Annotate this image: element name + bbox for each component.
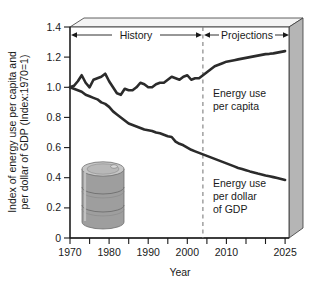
y-tick-label-1.4: 1.4 [46, 21, 61, 33]
series-label-capita-line1: Energy use [213, 87, 266, 99]
series-label-gdp-line3: of GDP [213, 203, 247, 215]
x-tick-label-2010: 2010 [215, 246, 239, 258]
y-tick-label-0.4: 0.4 [46, 171, 61, 183]
x-tick-label-1980: 1980 [97, 246, 121, 258]
y-axis-title-line2: per dollar of GDP (Index:1970=1) [18, 55, 30, 210]
x-tick-label-1970: 1970 [58, 246, 82, 258]
x-axis-title: Year [169, 266, 191, 278]
series-label-energy-use-per-capita: Energy use per capita [213, 87, 266, 112]
chart-figure: 0 0.2 0.4 0.6 0.8 1.0 1.2 1.4 Index of e… [0, 0, 325, 289]
y-tick-label-0.8: 0.8 [46, 111, 61, 123]
oil-barrel-illustration [82, 162, 124, 229]
panel-top-3d [70, 18, 303, 27]
panel-side-3d [289, 18, 303, 238]
series-label-gdp-line1: Energy use [213, 177, 266, 189]
x-tick-label-2000: 2000 [176, 246, 200, 258]
series-label-capita-line2: per capita [213, 100, 259, 112]
history-label: History [120, 29, 153, 41]
y-tick-label-0.2: 0.2 [46, 201, 61, 213]
series-label-gdp-line2: per dollar [213, 190, 257, 202]
projections-label: Projections [221, 29, 273, 41]
y-tick-label-0: 0 [55, 232, 61, 244]
y-tick-label-0.6: 0.6 [46, 141, 61, 153]
y-axis-title: Index of energy use per capita and per d… [6, 51, 30, 213]
y-tick-label-1.2: 1.2 [46, 51, 61, 63]
energy-index-line-chart: 0 0.2 0.4 0.6 0.8 1.0 1.2 1.4 Index of e… [0, 0, 325, 289]
y-tick-label-1.0: 1.0 [46, 81, 61, 93]
x-tick-label-2025: 2025 [273, 246, 297, 258]
x-tick-label-1990: 1990 [137, 246, 161, 258]
y-axis-title-line1: Index of energy use per capita and [6, 51, 18, 213]
